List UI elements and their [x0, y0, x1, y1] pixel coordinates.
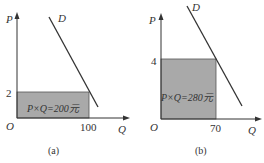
panel-a-plot [0, 0, 132, 163]
x-tick-label: 70 [210, 123, 221, 134]
panel-label: (a) [48, 145, 59, 156]
panel-b: P D 4 O 70 Q P×Q=280元 (b) [132, 0, 264, 163]
figure-caption-cropped [40, 157, 230, 163]
y-axis-arrow-icon [159, 13, 164, 20]
origin-label: O [6, 121, 14, 132]
y-axis-arrow-icon [15, 12, 20, 19]
x-axis-arrow-icon [255, 117, 262, 122]
demand-label: D [192, 2, 200, 13]
panel-a: P D 2 O 100 Q P×Q=200元 (a) [0, 0, 132, 163]
demand-label: D [58, 13, 66, 24]
revenue-label: P×Q=280元 [161, 89, 213, 104]
y-tick-label: 4 [151, 56, 157, 67]
revenue-label: P×Q=200元 [27, 100, 79, 115]
y-axis-label: P [149, 15, 156, 26]
x-axis-arrow-icon [123, 116, 130, 121]
x-axis-label: Q [248, 125, 256, 136]
x-axis-label: Q [118, 124, 126, 135]
y-tick-label: 2 [6, 88, 12, 99]
panel-label: (b) [195, 145, 207, 156]
y-axis-label: P [6, 14, 13, 25]
x-tick-label: 100 [80, 122, 97, 133]
origin-label: O [150, 122, 158, 133]
